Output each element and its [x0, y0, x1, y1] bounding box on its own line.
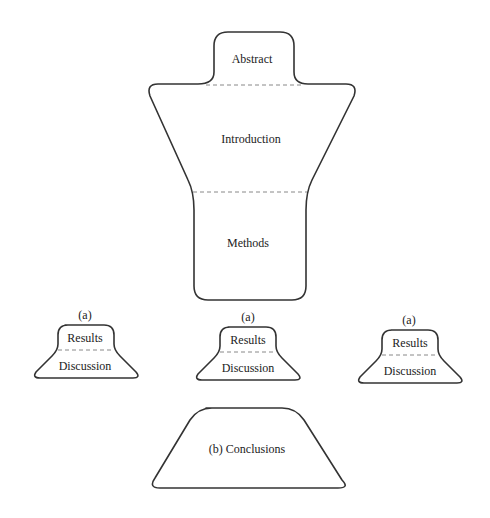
block-tag: (a) — [402, 313, 415, 327]
results-label: Results — [392, 336, 428, 350]
introduction-label: Introduction — [221, 132, 280, 146]
paper-structure-diagram: Abstract Introduction Methods (a) Result… — [0, 0, 490, 518]
results-label: Results — [67, 331, 103, 345]
results-label: Results — [230, 333, 266, 347]
results-block-1: (a) Results Discussion — [35, 308, 138, 378]
block-tag: (a) — [78, 308, 91, 322]
block-tag: (a) — [241, 310, 254, 324]
conclusions-label: (b) Conclusions — [209, 442, 286, 456]
results-block-3: (a) Results Discussion — [359, 313, 462, 383]
methods-label: Methods — [227, 236, 269, 250]
main-shape: Abstract Introduction Methods — [149, 32, 355, 300]
abstract-label: Abstract — [232, 52, 273, 66]
discussion-label: Discussion — [59, 359, 112, 373]
results-block-2: (a) Results Discussion — [197, 310, 300, 380]
conclusions-block: (b) Conclusions — [152, 408, 345, 488]
discussion-label: Discussion — [384, 364, 437, 378]
main-shape-outline — [149, 32, 355, 300]
discussion-label: Discussion — [222, 361, 275, 375]
